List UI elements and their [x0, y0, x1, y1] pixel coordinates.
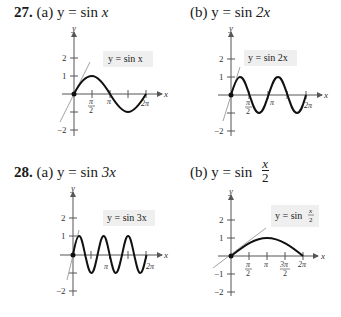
origin-point [229, 254, 234, 259]
legend-label: y = sin 2x [248, 52, 288, 63]
ytick-1: 1 [61, 231, 66, 241]
legend-label: y = sin [275, 210, 302, 221]
y-axis-label: y [228, 23, 233, 33]
legend-fraction-den: 2 [309, 216, 313, 224]
origin-point [229, 93, 234, 98]
y-axis-label: y [228, 186, 233, 196]
graph-27a: y x 2 1 −2 π 2 π 2π y = sin x [57, 23, 168, 136]
xtick-pi: π [264, 260, 269, 269]
x-axis-label: x [163, 89, 168, 99]
origin-point [71, 253, 76, 258]
ytick-minus-2: −2 [56, 286, 66, 296]
xtick-pi-half-num: π [246, 260, 251, 269]
xtick-pi: π [104, 262, 109, 271]
x-axis-label: x [163, 250, 168, 260]
xtick-2pi: 2π [298, 260, 307, 269]
graph-28b: y x 2 1 −1 −2 π 2 π 3π 2 2π y = sin x 2 [213, 186, 325, 297]
xtick-pi: π [270, 98, 275, 107]
ytick-minus-1: −1 [214, 269, 224, 279]
xtick-2pi: 2π [304, 101, 313, 110]
xtick-pi-half-den: 2 [246, 107, 250, 116]
ytick-minus-2: −2 [214, 287, 224, 297]
ytick-1: 1 [219, 233, 224, 243]
xtick-pi-half-den: 2 [89, 106, 93, 115]
ytick-minus-2: −2 [57, 125, 67, 135]
ytick-1: 1 [62, 71, 67, 81]
x-axis-label: x [323, 90, 328, 100]
xtick-3pi-half-num: 3π [279, 260, 289, 269]
graph-27b: y x 2 1 −2 π 2 π 2π y = sin 2x [214, 23, 328, 136]
origin-point [72, 92, 77, 97]
xtick-pi-half-den: 2 [246, 269, 250, 278]
xtick-pi-half-num: π [89, 97, 94, 106]
legend-label: y = sin x [108, 53, 143, 64]
y-axis-label: y [71, 23, 76, 33]
ytick-2: 2 [219, 54, 224, 64]
ytick-2: 2 [219, 215, 224, 225]
y-axis-label: y [70, 183, 75, 193]
xtick-2pi: 2π [146, 262, 155, 271]
ytick-minus-2: −2 [214, 126, 224, 136]
ytick-2: 2 [62, 53, 67, 63]
graphs-canvas: y x 2 1 −2 π 2 π 2π y = sin x y x [0, 0, 341, 317]
xtick-3pi-half-den: 2 [283, 269, 287, 278]
xtick-pi: π [107, 97, 112, 106]
ytick-1: 1 [219, 72, 224, 82]
x-axis-label: x [320, 251, 325, 261]
ytick-2: 2 [61, 213, 66, 223]
legend-label: y = sin 3x [107, 212, 147, 223]
graph-28a: y x 2 1 −2 π 2π y = sin 3x [56, 183, 168, 296]
